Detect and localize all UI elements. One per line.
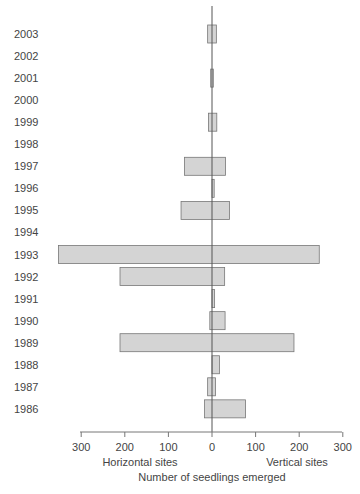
x-tick-label: 0 <box>209 441 215 453</box>
bar-1986 <box>205 400 246 418</box>
year-label: 1988 <box>14 359 38 371</box>
bar-1988 <box>212 356 219 374</box>
x-tick-label: 100 <box>159 441 177 453</box>
bar-1989 <box>120 334 294 352</box>
seedling-emergence-chart: 2003200220012000199919981997199619951994… <box>0 0 360 494</box>
year-label: 1992 <box>14 271 38 283</box>
x-tick-label: 100 <box>246 441 264 453</box>
year-label: 2000 <box>14 94 38 106</box>
year-label: 1999 <box>14 116 38 128</box>
x-axis-title: Number of seedlings emerged <box>138 471 285 483</box>
year-label: 1987 <box>14 381 38 393</box>
x-axis-right-label: Vertical sites <box>266 456 328 468</box>
year-label: 2002 <box>14 50 38 62</box>
year-label: 1986 <box>14 403 38 415</box>
year-label: 2001 <box>14 72 38 84</box>
year-label: 1995 <box>14 204 38 216</box>
year-label: 1997 <box>14 160 38 172</box>
year-labels: 2003200220012000199919981997199619951994… <box>14 28 38 415</box>
x-tick-label: 300 <box>72 441 90 453</box>
year-label: 1989 <box>14 337 38 349</box>
year-label: 2003 <box>14 28 38 40</box>
year-label: 1990 <box>14 315 38 327</box>
bar-1995 <box>181 201 229 219</box>
bar-1997 <box>185 157 226 175</box>
year-label: 1993 <box>14 249 38 261</box>
x-axis-left-label: Horizontal sites <box>102 456 178 468</box>
x-axis-ticks: 3002001000100200300 <box>72 432 352 453</box>
bar-1999 <box>209 113 217 131</box>
year-label: 1998 <box>14 138 38 150</box>
bar-1993 <box>59 246 320 264</box>
year-label: 1994 <box>14 226 38 238</box>
year-label: 1991 <box>14 293 38 305</box>
x-tick-label: 200 <box>290 441 308 453</box>
x-axis: 3002001000100200300 Horizontal sites Ver… <box>72 432 352 483</box>
bar-1992 <box>120 268 225 286</box>
x-tick-label: 300 <box>334 441 352 453</box>
x-tick-label: 200 <box>116 441 134 453</box>
bars-group <box>59 25 320 418</box>
year-label: 1996 <box>14 182 38 194</box>
